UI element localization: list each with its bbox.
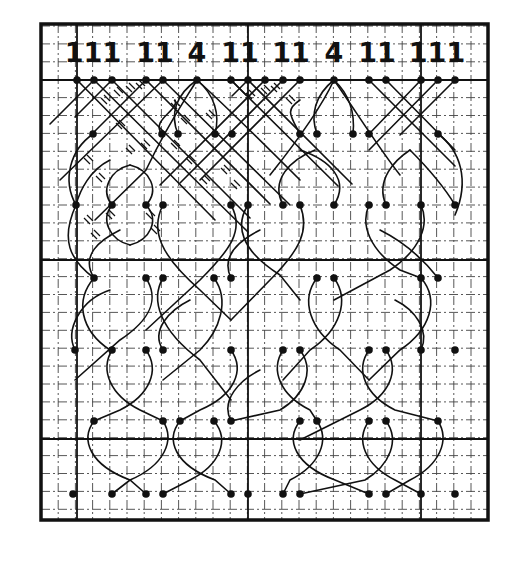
pin-hole bbox=[159, 346, 167, 354]
thread-path bbox=[242, 205, 300, 300]
pin-hole bbox=[296, 76, 304, 84]
tally-mark bbox=[99, 173, 105, 179]
tally-mark bbox=[286, 98, 292, 104]
pair-count-label: 111 bbox=[65, 37, 121, 68]
thread-path bbox=[75, 278, 152, 380]
pin-hole bbox=[90, 417, 98, 425]
tally-mark bbox=[151, 228, 157, 234]
pair-count-label: 11 bbox=[221, 37, 259, 68]
pin-hole bbox=[330, 76, 338, 84]
pin-hole bbox=[313, 417, 321, 425]
thread-path bbox=[94, 350, 152, 421]
pin-hole bbox=[434, 130, 442, 138]
pin-hole bbox=[434, 274, 442, 282]
thread-path bbox=[300, 421, 392, 494]
pin-hole bbox=[71, 346, 79, 354]
pin-hole bbox=[434, 76, 442, 84]
pin-hole bbox=[142, 346, 150, 354]
pin-hole bbox=[434, 417, 442, 425]
tally-mark bbox=[234, 180, 240, 186]
pin-hole bbox=[451, 201, 459, 209]
pin-hole bbox=[90, 274, 98, 282]
thread-path bbox=[363, 350, 438, 421]
tally-mark bbox=[144, 140, 150, 146]
tally-mark bbox=[84, 158, 90, 164]
pin-hole bbox=[296, 490, 304, 498]
thread-path bbox=[158, 278, 231, 400]
thread-path bbox=[277, 350, 317, 421]
thread-path bbox=[309, 278, 369, 380]
pin-hole bbox=[382, 417, 390, 425]
pin-hole bbox=[73, 76, 81, 84]
pin-hole bbox=[365, 346, 373, 354]
tally-mark bbox=[224, 165, 230, 171]
thread-path bbox=[173, 421, 231, 494]
pin-hole bbox=[244, 201, 252, 209]
pin-hole bbox=[313, 130, 321, 138]
pin-hole bbox=[159, 490, 167, 498]
thread-path bbox=[159, 300, 190, 350]
pin-hole bbox=[176, 417, 184, 425]
pin-hole bbox=[227, 490, 235, 498]
pin-hole bbox=[108, 346, 116, 354]
tally-mark bbox=[87, 215, 93, 221]
pin-hole bbox=[296, 201, 304, 209]
pin-hole bbox=[451, 346, 459, 354]
pair-count-label: 11 bbox=[272, 37, 310, 68]
thread-path bbox=[88, 421, 146, 494]
pin-hole bbox=[159, 201, 167, 209]
thread-path bbox=[314, 80, 334, 134]
pin-hole bbox=[279, 76, 287, 84]
pin-hole bbox=[417, 76, 425, 84]
pin-hole bbox=[365, 490, 373, 498]
pin-hole bbox=[142, 201, 150, 209]
tally-mark bbox=[101, 98, 107, 104]
pin-hole bbox=[142, 490, 150, 498]
thread-path bbox=[293, 421, 369, 494]
tally-mark bbox=[129, 83, 135, 89]
thread-path bbox=[400, 80, 455, 135]
tally-mark bbox=[231, 183, 237, 189]
pin-hole bbox=[158, 130, 166, 138]
pin-hole bbox=[227, 76, 235, 84]
pin-hole bbox=[382, 346, 390, 354]
pin-hole bbox=[365, 76, 373, 84]
pair-count-label: 111 bbox=[409, 37, 465, 68]
pin-hole bbox=[72, 201, 80, 209]
pin-hole bbox=[365, 417, 373, 425]
pin-hole bbox=[210, 417, 218, 425]
pair-count-label: 11 bbox=[358, 37, 396, 68]
pin-hole bbox=[296, 417, 304, 425]
pin-hole bbox=[417, 490, 425, 498]
pin-hole bbox=[279, 201, 287, 209]
thread-path bbox=[386, 421, 443, 494]
tally-mark bbox=[94, 230, 100, 236]
pin-hole bbox=[227, 417, 235, 425]
thread-path bbox=[300, 350, 392, 440]
pin-hole bbox=[211, 130, 219, 138]
thread-path bbox=[158, 205, 231, 320]
thread-path bbox=[228, 370, 260, 421]
pin-hole bbox=[279, 490, 287, 498]
tally-mark bbox=[289, 95, 295, 101]
thread-path bbox=[50, 80, 94, 124]
pin-hole bbox=[227, 274, 235, 282]
pin-hole bbox=[296, 346, 304, 354]
pin-hole bbox=[451, 76, 459, 84]
tally-marks bbox=[84, 80, 295, 239]
pin-hole bbox=[417, 346, 425, 354]
pin-hole bbox=[365, 130, 373, 138]
pin-hole bbox=[417, 201, 425, 209]
pair-count-label: 4 bbox=[325, 37, 344, 68]
pin-hole bbox=[451, 490, 459, 498]
thread-path bbox=[283, 278, 342, 380]
pin-hole bbox=[244, 76, 252, 84]
pin-hole bbox=[227, 346, 235, 354]
thread-path bbox=[107, 350, 163, 421]
pin-hole bbox=[90, 76, 98, 84]
pin-hole bbox=[108, 76, 116, 84]
pin-hole bbox=[174, 130, 182, 138]
thread-path bbox=[438, 134, 462, 215]
pin-hole bbox=[89, 130, 97, 138]
pin-hole bbox=[330, 201, 338, 209]
